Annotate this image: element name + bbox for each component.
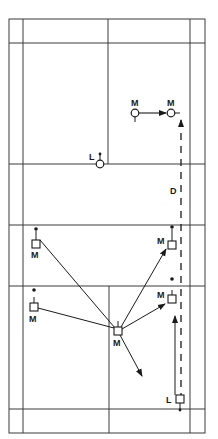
shuttle-dot-icon [99,153,102,156]
court-lines [9,19,205,433]
player-label: L [166,395,172,405]
player-square-icon [30,303,38,311]
dashed-path-label: D [170,186,177,196]
shuttle-dot-icon [179,409,182,412]
top-l-player: L [89,152,104,168]
player-circle-icon [96,160,104,168]
upper-left-m: M [31,227,40,260]
player-label: M [113,338,121,348]
player-circle-icon [167,109,175,117]
player-label: M [167,98,175,108]
player-square-icon [168,241,176,249]
player-label: M [131,98,139,108]
player-label: L [89,152,95,162]
arrow-to-upper-left [40,240,115,328]
lower-right-m: M [157,277,176,303]
shuttle-dot-icon [34,227,38,231]
arrow-to-lower-right [122,304,165,329]
player-square-icon [168,295,176,303]
arrow-to-upper-right [121,249,166,327]
lower-left-m: M [29,288,38,324]
shuttle-dot-icon [32,288,36,292]
centre-m: M [113,321,122,348]
shuttle-dot-icon [170,225,174,229]
player-square-icon [114,327,122,335]
upper-right-m: M [157,225,176,249]
arrow-to-lower-left [38,308,114,328]
shuttle-dot-icon [170,277,174,281]
player-label: M [29,314,37,324]
centre-arrows [38,240,175,395]
player-label: M [157,290,165,300]
court-boundary [9,19,205,433]
player-label: M [157,236,165,246]
court-diagram: D M M L M M M [0,0,218,439]
arrow-to-back-centre [120,335,142,376]
player-square-icon [176,395,184,403]
player-circle-icon [131,109,139,117]
top-m-start: M [131,98,139,122]
player-label: M [31,250,39,260]
top-m-end: M [167,98,180,117]
player-square-icon [32,240,40,248]
